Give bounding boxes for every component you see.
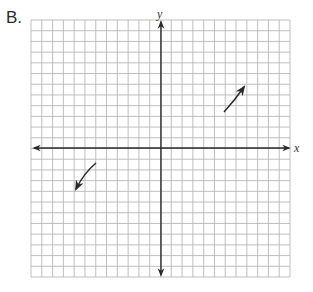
y-axis-label: y (156, 7, 163, 21)
coordinate-plane: x y (0, 0, 313, 292)
curve-lower-left (76, 163, 96, 189)
x-axis-label: x (293, 141, 300, 155)
curve-upper-right (224, 87, 244, 112)
